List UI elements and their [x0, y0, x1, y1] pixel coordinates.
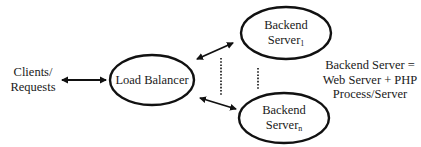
backend-n-line2: Servern	[239, 118, 329, 133]
load-balancer-label: Load Balancer	[110, 73, 194, 88]
load-balancer-text: Load Balancer	[115, 73, 188, 87]
backend-server-1-label: Backend Server1	[241, 18, 331, 48]
backend-definition-annotation: Backend Server = Web Server + PHP Proces…	[322, 58, 418, 102]
requests-text: Requests	[8, 80, 58, 95]
lb-servern-arrow	[200, 98, 236, 109]
server-n-subscript: n	[298, 124, 302, 133]
load-balancer-diagram: Clients/ Requests Load Balancer Backend …	[0, 0, 421, 147]
backend-1-line2: Server1	[241, 33, 331, 48]
server-n-text: Server	[266, 118, 299, 132]
server-1-subscript: 1	[300, 39, 304, 48]
server-1-text: Server	[268, 33, 301, 47]
clients-text: Clients/	[8, 65, 58, 80]
lb-server1-arrow	[197, 43, 233, 59]
annotation-line1: Backend Server =	[322, 58, 418, 73]
backend-server-n-label: Backend Servern	[239, 103, 329, 133]
annotation-line3: Process/Server	[322, 87, 418, 102]
backend-n-line1: Backend	[239, 103, 329, 118]
backend-1-line1: Backend	[241, 18, 331, 33]
annotation-line2: Web Server + PHP	[322, 73, 418, 88]
clients-requests-label: Clients/ Requests	[8, 65, 58, 95]
